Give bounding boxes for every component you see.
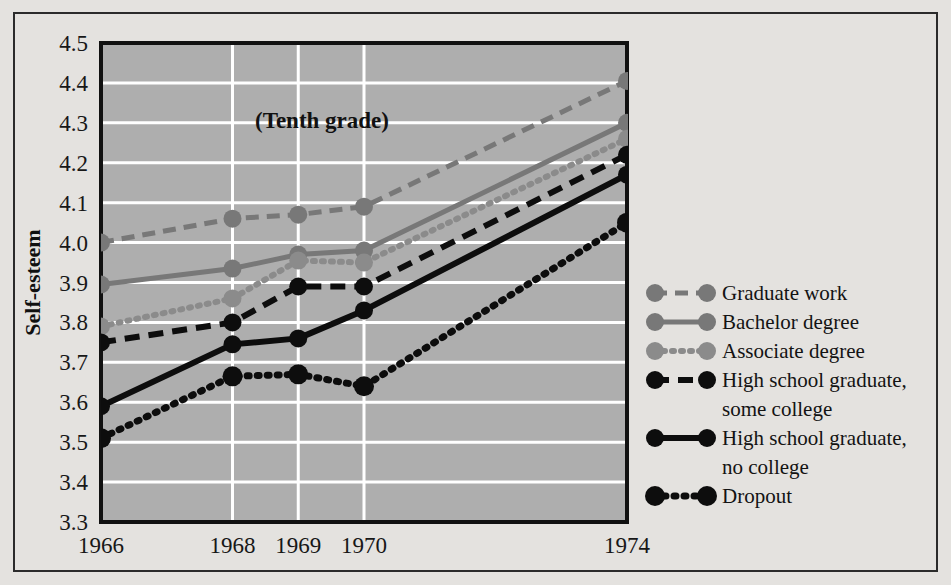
data-point-marker bbox=[224, 260, 242, 278]
data-point-marker bbox=[289, 252, 307, 270]
legend-sample-marker-start bbox=[645, 486, 665, 506]
legend-sample-marker-start bbox=[646, 313, 664, 331]
data-point-marker bbox=[91, 428, 111, 448]
data-point-marker bbox=[289, 329, 307, 347]
legend-label: Bachelor degree bbox=[722, 310, 859, 334]
y-axis-tick-label: 3.7 bbox=[59, 350, 88, 375]
data-point-marker bbox=[354, 376, 374, 396]
chart-annotation: (Tenth grade) bbox=[255, 108, 389, 133]
data-point-marker bbox=[92, 234, 110, 252]
data-point-marker bbox=[224, 313, 242, 331]
data-point-marker bbox=[618, 146, 636, 164]
y-axis-tick-label: 3.6 bbox=[59, 390, 88, 415]
legend-sample-marker-end bbox=[698, 313, 716, 331]
legend-label: Graduate work bbox=[722, 281, 848, 305]
x-axis-tick-label: 1966 bbox=[78, 533, 124, 558]
legend-entry-graduate-work: Graduate work bbox=[646, 281, 848, 305]
y-axis-tick-label: 3.5 bbox=[59, 430, 88, 455]
legend-sample-marker-start bbox=[646, 342, 664, 360]
x-axis-tick-labels: 19661968196919701974 bbox=[78, 533, 651, 558]
legend-entry-associate-degree: Associate degree bbox=[646, 339, 865, 363]
data-point-marker bbox=[289, 277, 307, 295]
data-point-marker bbox=[224, 210, 242, 228]
x-axis-tick-label: 1970 bbox=[341, 533, 387, 558]
legend-sample-marker-end bbox=[698, 371, 716, 389]
data-point-marker bbox=[618, 130, 636, 148]
data-point-marker bbox=[224, 335, 242, 353]
legend-sample-marker-end bbox=[698, 284, 716, 302]
legend-sample-marker-start bbox=[646, 284, 664, 302]
data-point-marker bbox=[92, 275, 110, 293]
legend-label: some college bbox=[722, 397, 832, 421]
data-point-marker bbox=[355, 254, 373, 272]
data-point-marker bbox=[618, 114, 636, 132]
legend-sample-marker-end bbox=[698, 429, 716, 447]
data-point-marker bbox=[223, 366, 243, 386]
data-point-marker bbox=[355, 301, 373, 319]
y-axis-title: Self-esteem bbox=[20, 229, 45, 335]
y-axis-tick-label: 4.4 bbox=[59, 71, 88, 96]
x-axis-tick-label: 1974 bbox=[604, 533, 651, 558]
y-axis-tick-label: 4.2 bbox=[59, 151, 88, 176]
data-point-marker bbox=[617, 213, 637, 233]
legend-label: no college bbox=[722, 455, 809, 479]
self-esteem-line-chart: 4.54.44.34.24.14.03.93.83.73.63.53.43.3S… bbox=[0, 0, 951, 585]
y-axis-tick-label: 3.8 bbox=[59, 310, 88, 335]
y-axis-tick-label: 3.9 bbox=[59, 271, 88, 296]
data-point-marker bbox=[92, 333, 110, 351]
legend-sample-marker-end bbox=[697, 486, 717, 506]
data-point-marker bbox=[288, 364, 308, 384]
data-point-marker bbox=[289, 206, 307, 224]
x-axis-tick-label: 1968 bbox=[210, 533, 256, 558]
data-point-marker bbox=[618, 72, 636, 90]
data-point-marker bbox=[92, 317, 110, 335]
y-axis-tick-label: 4.1 bbox=[59, 191, 88, 216]
legend-label: Dropout bbox=[722, 484, 792, 508]
y-axis-tick-label: 4.0 bbox=[59, 231, 88, 256]
legend-entry-bachelor-degree: Bachelor degree bbox=[646, 310, 859, 334]
legend-entry-high-school-graduate-some-college: High school graduate,some college bbox=[646, 368, 907, 421]
legend: Graduate workBachelor degreeAssociate de… bbox=[645, 281, 907, 508]
figure-container: 4.54.44.34.24.14.03.93.83.73.63.53.43.3S… bbox=[0, 0, 951, 585]
x-axis-tick-label: 1969 bbox=[275, 533, 321, 558]
y-axis-tick-label: 4.3 bbox=[59, 111, 88, 136]
legend-entry-dropout: Dropout bbox=[645, 484, 792, 508]
legend-sample-marker-start bbox=[646, 371, 664, 389]
y-axis-tick-label: 4.5 bbox=[59, 31, 88, 56]
data-point-marker bbox=[355, 198, 373, 216]
legend-label: High school graduate, bbox=[722, 426, 907, 450]
y-axis-tick-labels: 4.54.44.34.24.14.03.93.83.73.63.53.43.3 bbox=[59, 31, 88, 535]
legend-entry-high-school-graduate-no-college: High school graduate,no college bbox=[646, 426, 907, 479]
y-axis-tick-label: 3.3 bbox=[59, 510, 88, 535]
legend-label: High school graduate, bbox=[722, 368, 907, 392]
data-point-marker bbox=[355, 277, 373, 295]
data-point-marker bbox=[224, 289, 242, 307]
data-point-marker bbox=[92, 397, 110, 415]
legend-label: Associate degree bbox=[722, 339, 865, 363]
legend-sample-marker-end bbox=[698, 342, 716, 360]
data-point-marker bbox=[618, 166, 636, 184]
legend-sample-marker-start bbox=[646, 429, 664, 447]
y-axis-tick-label: 3.4 bbox=[59, 470, 88, 495]
